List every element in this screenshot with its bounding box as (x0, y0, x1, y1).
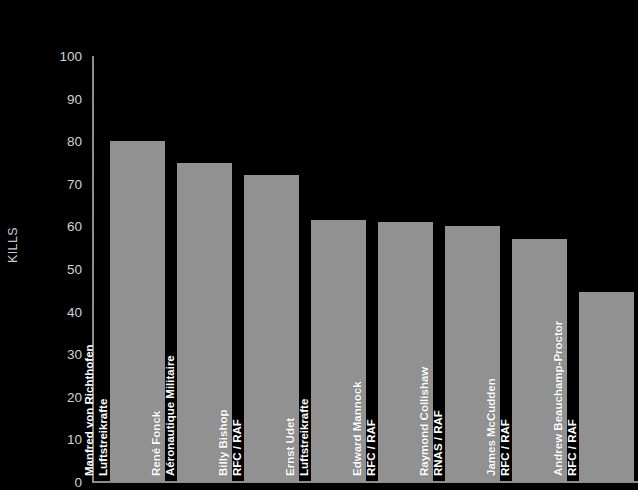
bar[interactable] (177, 163, 232, 483)
y-axis-tick: 0 (74, 475, 82, 490)
bar-label-unit: RFC / RAF (498, 378, 512, 476)
plot-area: Manfred von RichthofenLuftstreikrafteRen… (94, 56, 638, 482)
bar-slot: René FonckAéronautique Militaire (177, 56, 232, 482)
y-axis-tick: 20 (67, 389, 82, 404)
bar-slot: Raymond CollishawRNAS / RAF (445, 56, 500, 482)
bar-label-unit: RFC / RAF (230, 410, 244, 476)
y-axis-tick: 10 (67, 432, 82, 447)
y-axis-tick: 100 (59, 49, 82, 64)
bar-slot: Edward MannockRFC / RAF (378, 56, 433, 482)
y-axis-tick: 50 (67, 262, 82, 277)
bar[interactable] (110, 141, 165, 482)
y-axis-tick: 80 (67, 134, 82, 149)
bar-slot: Billy BishopRFC / RAF (244, 56, 299, 482)
bar-slot: Andrew Beauchamp-ProctorRFC / RAF (579, 56, 634, 482)
bar[interactable] (579, 292, 634, 482)
bar[interactable] (378, 222, 433, 482)
y-axis-tick: 90 (67, 91, 82, 106)
bar-label-unit: Luftstreikrafte (297, 399, 311, 476)
bar-label-unit: RFC / RAF (565, 321, 579, 476)
bar-slot: Ernst UdetLuftstreikrafte (311, 56, 366, 482)
y-axis-tick-labels: 1009080706050403020100 (44, 0, 88, 490)
bar-chart: KILLS 1009080706050403020100 Manfred von… (0, 0, 638, 490)
bar-slot: Manfred von RichthofenLuftstreikrafte (110, 56, 165, 482)
y-axis-title: KILLS (0, 0, 26, 490)
y-axis-tick: 40 (67, 304, 82, 319)
bar[interactable] (311, 220, 366, 482)
bar-label-unit: Luftstreikrafte (96, 344, 110, 476)
y-axis-tick: 70 (67, 176, 82, 191)
bar-label-unit: Aéronautique Militaire (163, 355, 177, 476)
bar[interactable] (512, 239, 567, 482)
bar-label-unit: RNAS / RAF (431, 367, 445, 476)
bar-label-unit: RFC / RAF (364, 381, 378, 476)
bar[interactable] (244, 175, 299, 482)
y-axis-tick: 60 (67, 219, 82, 234)
y-axis-tick: 30 (67, 347, 82, 362)
bar-slot: James McCuddenRFC / RAF (512, 56, 567, 482)
bar[interactable] (445, 226, 500, 482)
